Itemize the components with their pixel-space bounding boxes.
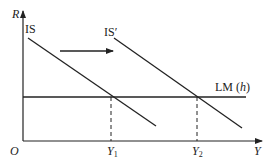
y1-label: Y1	[107, 144, 118, 159]
is-lm-diagram: R Y O IS IS′ LM (h) Y1 Y2	[0, 0, 274, 165]
origin-label: O	[10, 144, 19, 158]
x-axis-label: Y	[254, 144, 262, 158]
lm-label: LM (h)	[215, 80, 250, 94]
y-axis-label: R	[11, 7, 20, 21]
is-label: IS	[25, 22, 36, 36]
y2-label: Y2	[192, 144, 203, 159]
is-prime-label: IS′	[104, 25, 118, 39]
